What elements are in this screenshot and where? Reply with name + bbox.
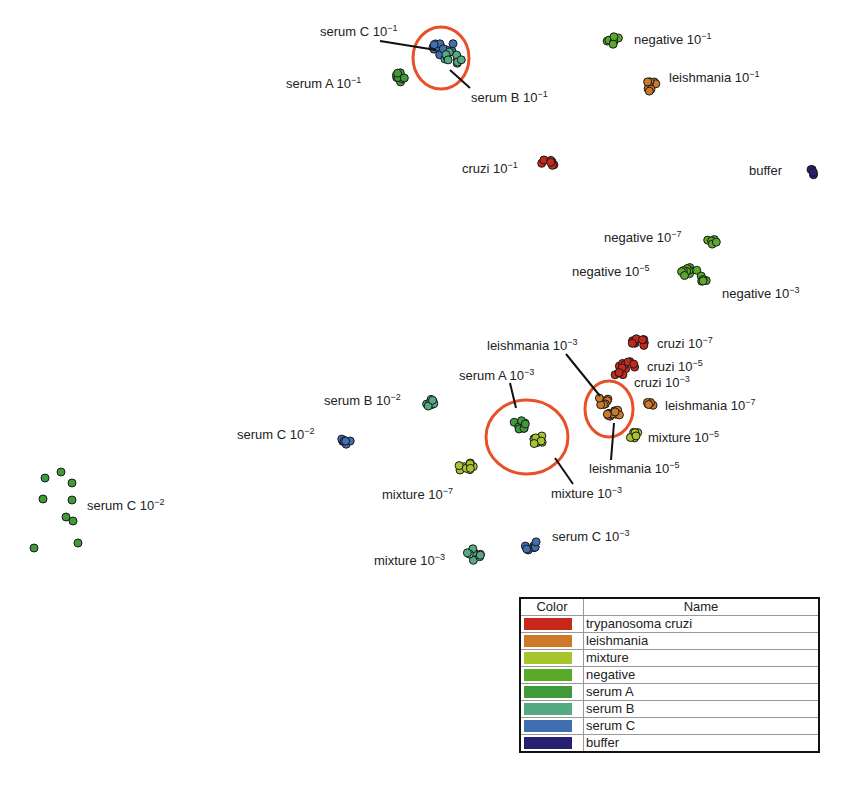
data-point	[681, 272, 689, 280]
legend-swatch	[524, 737, 572, 749]
cluster-label: negative 10−1	[634, 31, 712, 47]
data-point	[342, 437, 350, 445]
cluster-labels: serum C 10−1serum A 10−1serum B 10−1nega…	[87, 23, 800, 568]
data-point	[523, 545, 531, 553]
cluster-label: cruzi 10−3	[634, 374, 690, 390]
legend-label: serum C	[584, 718, 820, 735]
cluster-label: mixture 10−5	[648, 429, 719, 445]
data-point	[547, 158, 555, 166]
legend-swatch-cell	[520, 684, 584, 701]
leader-lines	[380, 41, 614, 484]
data-point	[615, 369, 623, 377]
legend-label: serum A	[584, 684, 820, 701]
cluster-label: serum C 10−2	[87, 497, 164, 513]
legend-header-name: Name	[584, 598, 820, 616]
legend-swatch-cell	[520, 735, 584, 753]
cluster	[807, 166, 818, 179]
cluster	[530, 432, 546, 448]
cluster-label: negative 10−5	[572, 263, 650, 279]
legend-row: negative	[520, 667, 819, 684]
data-point	[68, 496, 76, 504]
legend-label: negative	[584, 667, 820, 684]
cluster	[338, 435, 354, 448]
data-point	[69, 517, 77, 525]
data-point	[603, 410, 611, 418]
cluster	[30, 468, 82, 552]
legend-swatch-cell	[520, 701, 584, 718]
legend-swatch	[524, 686, 572, 698]
cluster	[697, 272, 710, 285]
cluster	[441, 48, 465, 67]
data-point	[457, 56, 465, 64]
cluster-label: cruzi 10−7	[657, 335, 713, 351]
cluster	[423, 395, 438, 410]
data-point	[610, 33, 618, 41]
data-point	[429, 396, 437, 404]
cluster-label: serum A 10−1	[286, 75, 361, 91]
data-point	[463, 549, 471, 557]
cluster-label: serum C 10−2	[237, 426, 314, 442]
legend-table: Color Name trypanosoma cruzileishmaniami…	[519, 597, 820, 753]
data-point	[30, 544, 38, 552]
cluster	[463, 545, 484, 565]
cluster-label: serum A 10−3	[459, 367, 534, 383]
data-point	[611, 408, 619, 416]
data-point	[712, 238, 720, 246]
cluster-label: buffer	[749, 163, 783, 178]
cluster	[643, 399, 657, 410]
data-point	[628, 339, 636, 347]
data-point	[644, 78, 652, 86]
data-point	[41, 474, 49, 482]
legend-swatch-cell	[520, 616, 584, 633]
legend-swatch	[524, 618, 572, 630]
cluster-label: negative 10−7	[604, 229, 682, 245]
legend-swatch	[524, 635, 572, 647]
cluster-label: serum B 10−1	[471, 89, 548, 105]
data-point	[476, 551, 484, 559]
legend-swatch	[524, 669, 572, 681]
cluster	[626, 428, 641, 442]
data-point	[449, 40, 457, 48]
data-point	[444, 56, 452, 64]
cluster-label: cruzi 10−1	[462, 160, 518, 176]
data-point	[609, 40, 617, 48]
cluster-label: leishmania 10−5	[589, 460, 679, 476]
legend-label: trypanosoma cruzi	[584, 616, 820, 633]
legend-row: mixture	[520, 650, 819, 667]
data-point	[530, 440, 538, 448]
data-point	[699, 277, 707, 285]
cluster-label: serum C 10−3	[552, 528, 629, 544]
leader-line	[566, 354, 600, 396]
legend-header-color: Color	[520, 598, 584, 616]
cluster	[538, 156, 558, 169]
legend-row: serum B	[520, 701, 819, 718]
cluster-label: negative 10−3	[722, 285, 800, 301]
legend-swatch-cell	[520, 650, 584, 667]
data-point	[645, 87, 653, 95]
cluster	[455, 459, 477, 474]
legend-row: serum A	[520, 684, 819, 701]
data-point	[466, 464, 474, 472]
cluster-label: leishmania 10−1	[669, 69, 759, 85]
cluster	[644, 78, 660, 95]
legend-row: serum C	[520, 718, 819, 735]
legend-swatch-cell	[520, 718, 584, 735]
cluster-label: mixture 10−7	[382, 486, 453, 502]
data-point	[455, 462, 463, 470]
legend-row: leishmania	[520, 633, 819, 650]
data-point	[39, 495, 47, 503]
data-point	[68, 479, 76, 487]
cluster	[393, 69, 409, 86]
leader-line	[555, 458, 573, 484]
legend-swatch	[524, 652, 572, 664]
cluster-label: mixture 10−3	[551, 485, 622, 501]
data-point	[521, 420, 529, 428]
cluster	[510, 417, 529, 433]
cluster-label: leishmania 10−7	[665, 397, 755, 413]
legend-header-row: Color Name	[520, 598, 819, 616]
leader-line	[611, 423, 614, 460]
legend-row: buffer	[520, 735, 819, 753]
legend-label: leishmania	[584, 633, 820, 650]
data-points	[30, 33, 818, 565]
legend-swatch-cell	[520, 667, 584, 684]
